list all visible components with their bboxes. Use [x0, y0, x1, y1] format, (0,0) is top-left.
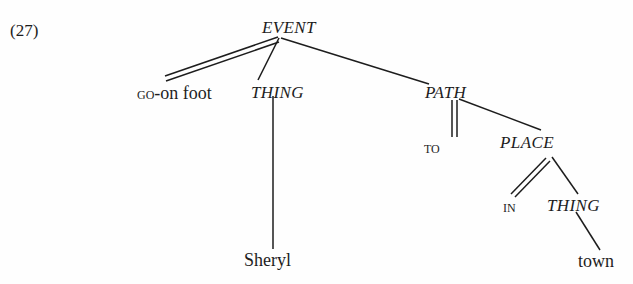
edge-event-to-go: [165, 37, 279, 81]
edge-event-to-path: [281, 38, 429, 84]
node-town: town: [578, 252, 614, 270]
node-thing-subject: THING: [251, 84, 304, 101]
example-number: (27): [10, 22, 38, 39]
edge-path-to-place: [459, 99, 541, 130]
edge-thing-to-town: [576, 212, 600, 250]
node-thing-object: THING: [547, 197, 600, 214]
node-go-plain-suffix: -on foot: [154, 83, 212, 103]
node-go-on-foot: GO-on foot: [137, 84, 212, 102]
node-go-small-caps: GO: [137, 84, 154, 103]
edge-place-to-thing: [552, 157, 578, 194]
edge-event-to-thing: [258, 38, 279, 80]
node-sheryl: Sheryl: [244, 251, 291, 269]
edge-path-to-to: [452, 100, 457, 137]
figure-canvas: (27) EVENT GO-on foot THING Sheryl PATH …: [0, 0, 633, 284]
node-event: EVENT: [262, 19, 316, 36]
node-place: PLACE: [500, 134, 554, 151]
node-path: PATH: [425, 84, 466, 101]
node-to: TO: [424, 139, 440, 156]
node-in: IN: [503, 198, 516, 215]
edge-place-to-in: [511, 158, 550, 197]
